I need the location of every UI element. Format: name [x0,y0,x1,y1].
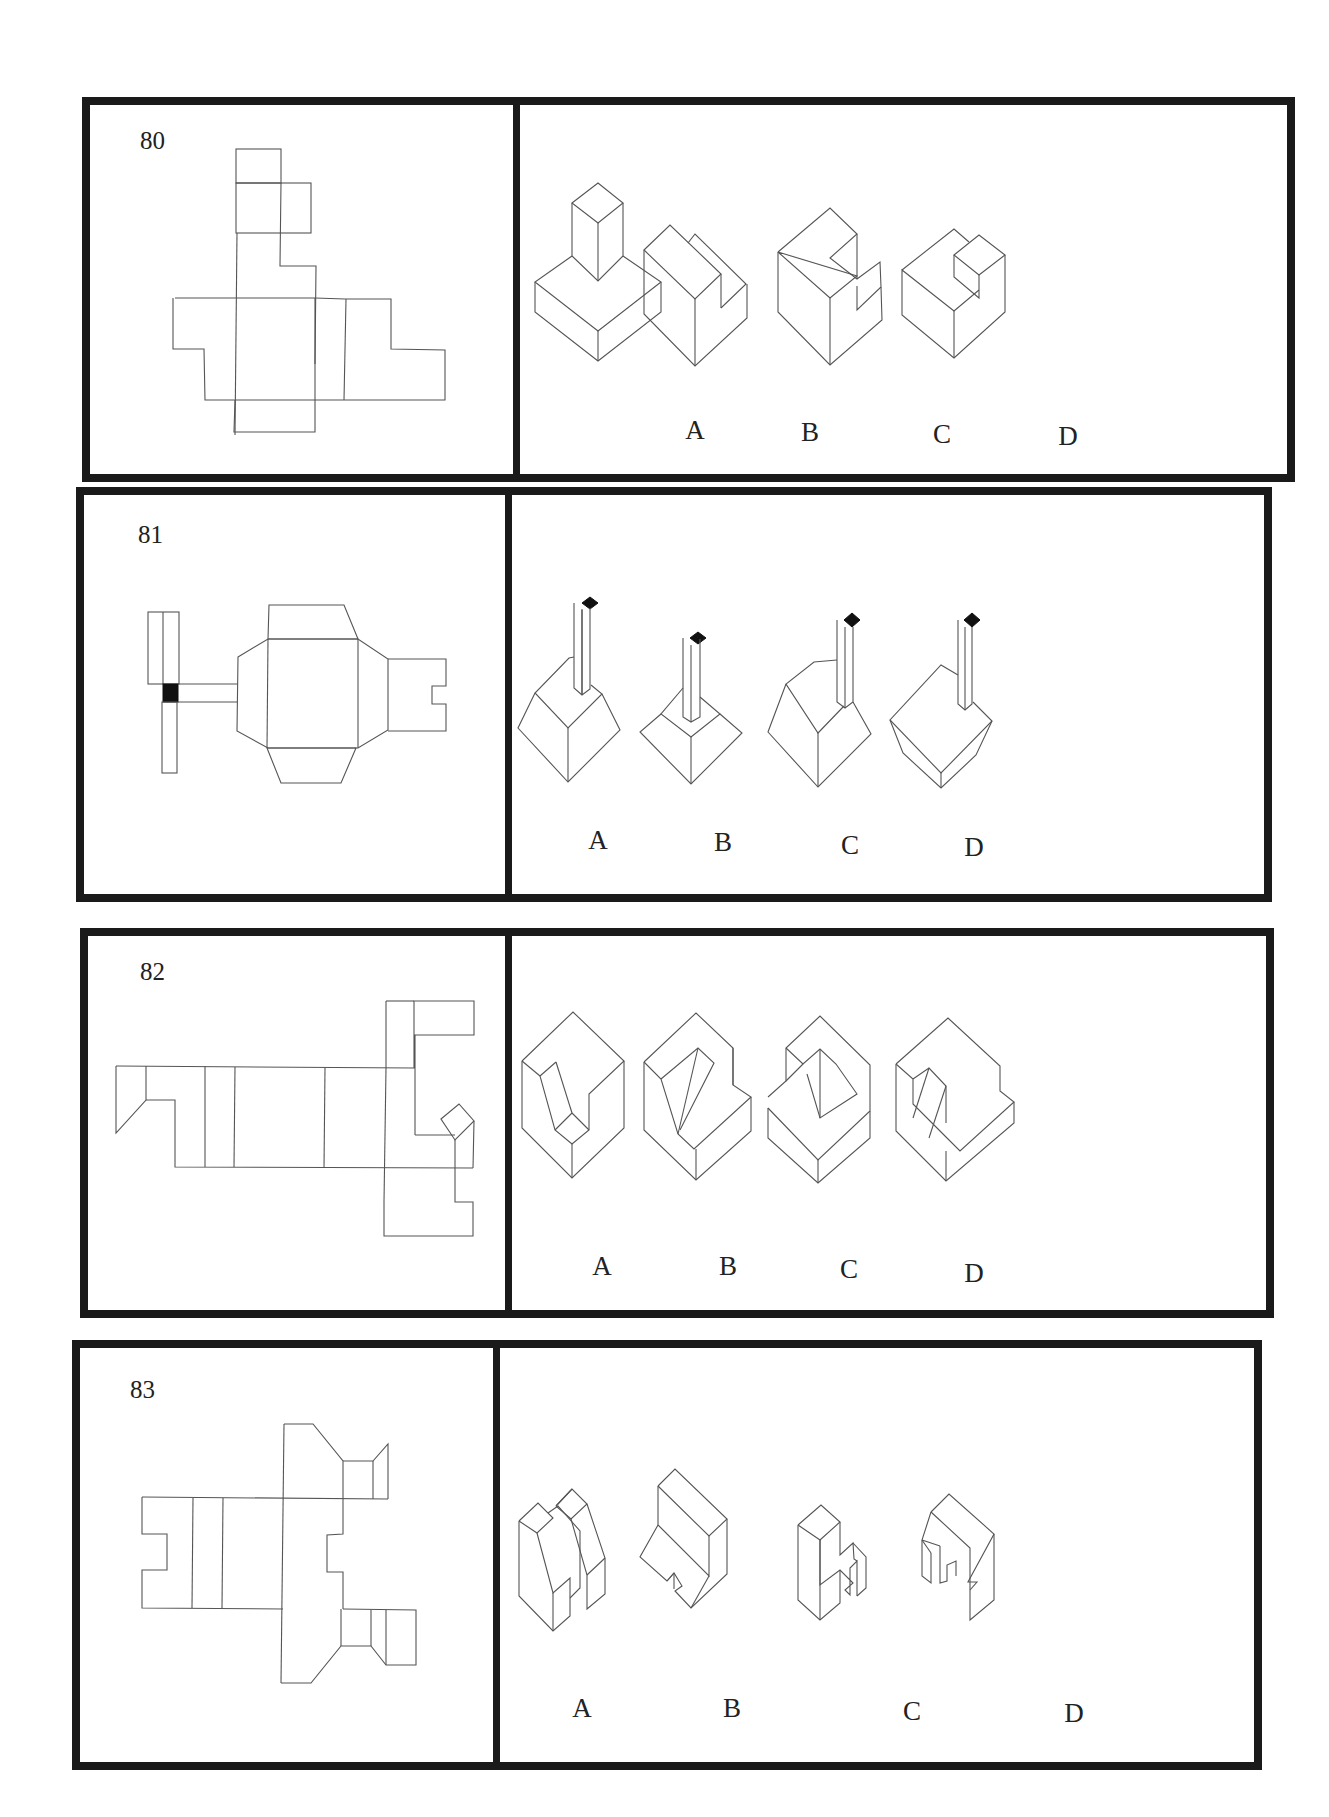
option-b-figure [640,1469,727,1608]
option-c-figure [798,1505,866,1620]
option-c-figure [768,613,871,787]
option-d-figure [890,613,992,788]
question-81: 81 [76,487,1272,902]
question-80-net-panel: 80 [90,105,520,474]
option-a-label[interactable]: A [685,415,705,446]
option-d-label[interactable]: D [964,832,984,863]
net-diagram [90,105,520,490]
option-a-label[interactable]: A [572,1693,592,1724]
option-c-figure [778,208,882,365]
option-d-label[interactable]: D [964,1258,984,1289]
net-diagram [88,936,512,1326]
question-82-options-panel: A B C D [512,936,1266,1310]
option-a-label[interactable]: A [592,1251,612,1282]
option-b-label[interactable]: B [714,827,732,858]
option-d-label[interactable]: D [1064,1698,1084,1729]
answer-figures [500,1348,1270,1778]
option-b-figure [644,225,747,366]
option-a-figure [522,1012,624,1178]
option-c-label[interactable]: C [840,1254,858,1285]
question-80-options-panel: A B C D [520,105,1287,474]
question-80: 80 [82,97,1295,482]
option-d-figure [902,229,1005,358]
option-a-label[interactable]: A [588,825,608,856]
question-81-net-panel: 81 [84,495,512,894]
option-a-figure [535,183,661,361]
answer-figures [520,105,1303,490]
question-83: 83 [72,1340,1262,1770]
option-b-figure [644,1013,751,1180]
option-a-figure [518,597,620,782]
option-c-label[interactable]: C [841,830,859,861]
answer-figures [512,495,1280,910]
option-b-figure [640,632,742,784]
option-a-figure [519,1489,605,1631]
option-c-label[interactable]: C [933,419,951,450]
option-b-label[interactable]: B [719,1251,737,1282]
option-c-figure [768,1016,870,1183]
question-82-net-panel: 82 [88,936,512,1310]
net-diagram [80,1348,500,1778]
option-b-label[interactable]: B [801,417,819,448]
option-b-label[interactable]: B [723,1693,741,1724]
question-81-options-panel: A B C D [512,495,1264,894]
option-d-figure [896,1018,1014,1181]
answer-figures [512,936,1282,1326]
question-83-options-panel: A B C D [500,1348,1254,1762]
option-c-label[interactable]: C [903,1696,921,1727]
net-diagram [84,495,512,910]
question-83-net-panel: 83 [80,1348,500,1762]
option-d-figure [922,1494,994,1620]
question-82: 82 [80,928,1274,1318]
option-d-label[interactable]: D [1058,421,1078,452]
